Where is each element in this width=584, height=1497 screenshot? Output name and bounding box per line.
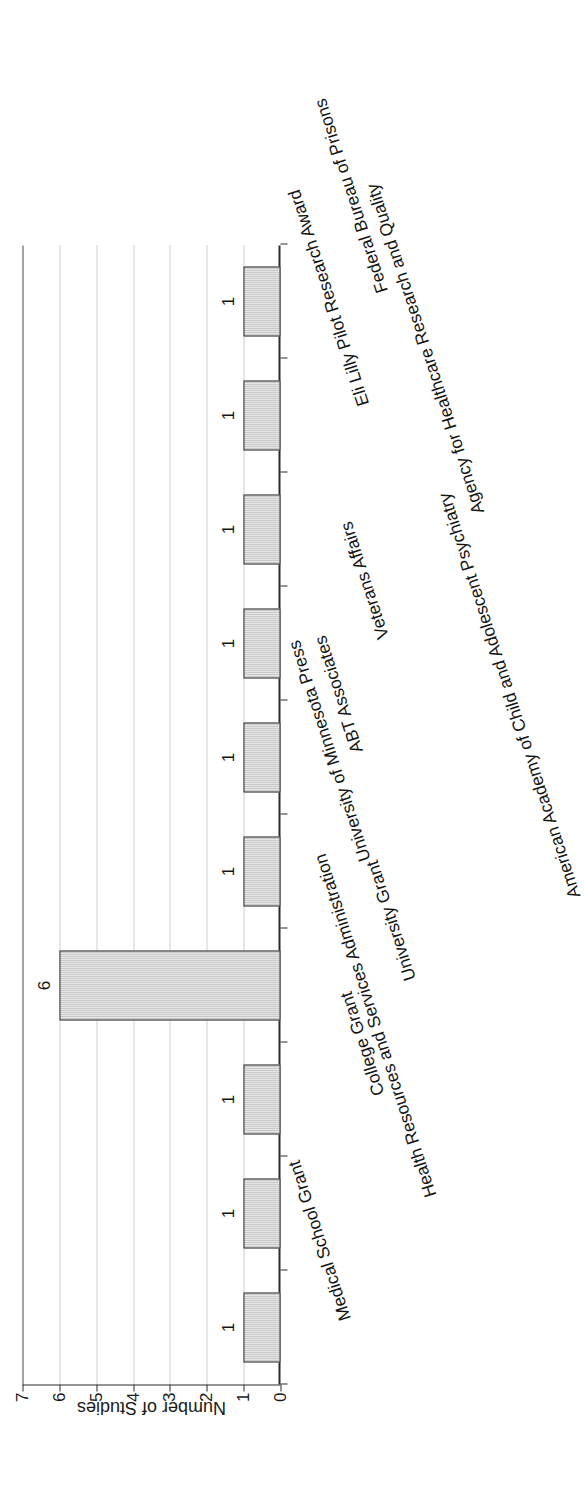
value-axis-tick [133,1384,134,1391]
gridline [133,245,134,1384]
bar-value-label: 1 [219,296,236,305]
bar-value-label: 1 [219,410,236,419]
bar [243,1064,280,1135]
category-label: Veterans Affairs [336,519,391,641]
value-axis-tick [169,1384,170,1391]
gridline [96,245,97,1384]
gridline [22,245,23,1384]
bar [243,1178,280,1249]
category-label: University Grant [362,858,418,983]
bar-value-label: 1 [219,1208,236,1217]
category-label-annotation: American Academy of Child and Adolescent… [434,490,583,900]
gridline [59,245,60,1384]
value-axis-tick [243,1384,244,1391]
value-axis-tick-label: 1 [235,1392,252,1414]
bar-value-label: 1 [219,866,236,875]
bar-value-label: 1 [219,752,236,761]
value-axis-tick [206,1384,207,1391]
bar-value-label: 1 [219,1094,236,1103]
bar-value-label: 6 [35,980,52,989]
bar-value-label: 1 [219,1322,236,1331]
value-axis-tick [96,1384,97,1391]
value-axis-tick-label: 7 [14,1392,31,1414]
bar [243,608,280,679]
bar [243,1292,280,1363]
bar [243,722,280,793]
bar [243,380,280,451]
value-axis-title: Number of Studies [76,1396,225,1417]
bar-value-label: 1 [219,638,236,647]
plot-area: 01234567 1116111111 Number of Studies [22,245,280,1385]
bar [243,836,280,907]
value-axis-tick [280,1384,281,1391]
value-axis-tick [22,1384,23,1391]
value-axis-tick [59,1384,60,1391]
category-label: Medical School Grant [284,1158,353,1323]
category-axis-labels: Medical School GrantHealth Resources and… [284,245,554,1385]
value-axis-tick-label: 0 [272,1392,289,1414]
category-axis-tick [280,243,287,244]
value-axis-tick-label: 6 [50,1392,67,1414]
gridline [169,245,170,1384]
bar-value-label: 1 [219,524,236,533]
bar [243,494,280,565]
bar [59,950,280,1021]
gridline [206,245,207,1384]
bar [243,266,280,337]
category-label: Agency for Healthcare Research and Quali… [362,181,486,516]
